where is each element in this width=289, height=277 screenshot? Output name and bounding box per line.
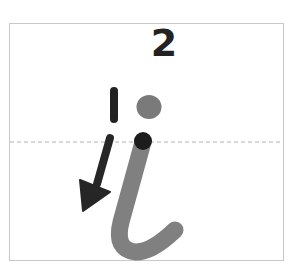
letter-diagram [0, 0, 289, 277]
start-point-dot-icon [134, 132, 152, 150]
direction-arrow-icon [80, 138, 110, 211]
letter-stroke [119, 142, 175, 252]
letter-dot [137, 95, 162, 119]
stroke-order-mark [110, 87, 118, 123]
